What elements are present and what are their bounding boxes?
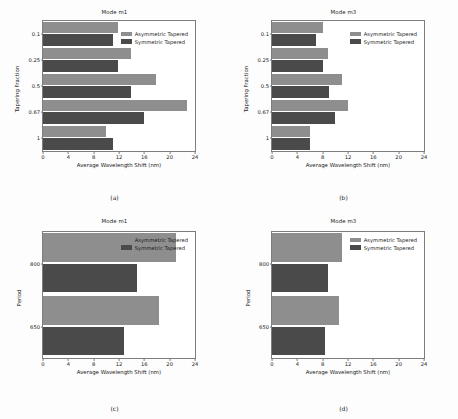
x-tick-mark (348, 358, 349, 361)
figure-four-panel-bar-charts: Mode m1 Asymmetric Tapered Symmetric Tap… (0, 0, 458, 419)
y-tick-mark (270, 34, 273, 35)
panel-c-legend: Asymmetric Tapered Symmetric Tapered (118, 235, 191, 254)
x-tick-mark (119, 358, 120, 361)
x-tick-label: 24 (421, 361, 428, 367)
panel-b-title: Mode m3 (229, 9, 458, 15)
panel-d-xlabel: Average Wavelength Shift (nm) (272, 369, 424, 375)
y-tick-mark (270, 86, 273, 87)
x-tick-label: 24 (421, 154, 428, 160)
panel-b: Mode m3 Asymmetric Tapered Symmetric Tap… (229, 0, 458, 209)
y-tick-mark (41, 112, 44, 113)
bar-group (272, 125, 424, 151)
x-tick-label: 20 (166, 361, 173, 367)
x-tick-label: 4 (67, 361, 70, 367)
panel-a-xlabel: Average Wavelength Shift (nm) (43, 162, 195, 168)
x-tick-label: 16 (370, 361, 377, 367)
x-tick-label: 4 (67, 154, 70, 160)
y-tick-label: 800 (30, 261, 40, 267)
bar-asymmetric (272, 233, 342, 262)
x-tick-mark (93, 151, 94, 154)
panel-a-caption: (a) (0, 194, 229, 201)
legend-label-symmetric: Symmetric Tapered (364, 39, 414, 45)
y-tick-label: 0.67 (28, 109, 40, 115)
bar-group (43, 99, 195, 125)
y-tick-label: 0.25 (28, 57, 40, 63)
x-tick-label: 20 (395, 154, 402, 160)
x-tick-label: 8 (321, 154, 324, 160)
legend-label-asymmetric: Asymmetric Tapered (135, 237, 188, 243)
bar-group (272, 73, 424, 99)
y-tick-mark (41, 138, 44, 139)
y-tick-mark (270, 112, 273, 113)
y-tick-label: 0.5 (32, 83, 40, 89)
bar-asymmetric (272, 74, 342, 86)
bar-asymmetric (272, 100, 348, 112)
x-tick-mark (144, 151, 145, 154)
x-tick-mark (169, 358, 170, 361)
y-tick-mark (41, 86, 44, 87)
y-tick-mark (41, 34, 44, 35)
panel-d-caption: (d) (229, 405, 458, 412)
x-tick-mark (272, 358, 273, 361)
bar-asymmetric (43, 74, 156, 86)
x-tick-mark (424, 151, 425, 154)
x-tick-mark (373, 151, 374, 154)
panel-d: Mode m3 Asymmetric Tapered Symmetric Tap… (229, 209, 458, 418)
x-tick-mark (297, 151, 298, 154)
y-tick-label: 1 (266, 135, 269, 141)
bar-group (272, 47, 424, 73)
x-tick-label: 16 (141, 361, 148, 367)
y-tick-label: 0.67 (257, 109, 269, 115)
y-tick-label: 0.1 (261, 31, 269, 37)
x-tick-label: 24 (192, 361, 199, 367)
legend-item-asymmetric: Asymmetric Tapered (350, 237, 417, 243)
x-tick-label: 4 (296, 361, 299, 367)
bar-asymmetric (43, 22, 118, 34)
bar-group (43, 73, 195, 99)
x-tick-label: 12 (345, 154, 352, 160)
x-tick-mark (93, 358, 94, 361)
x-tick-mark (169, 151, 170, 154)
legend-label-asymmetric: Asymmetric Tapered (364, 31, 417, 37)
bar-symmetric (272, 60, 323, 72)
x-tick-label: 8 (92, 361, 95, 367)
panel-a-ylabel: Tapering Fraction (14, 59, 20, 119)
y-tick-label: 0.1 (32, 31, 40, 37)
x-tick-mark (43, 151, 44, 154)
panel-c-ylabel: Period (16, 268, 22, 328)
y-tick-label: 650 (30, 324, 40, 330)
panel-b-xlabel: Average Wavelength Shift (nm) (272, 162, 424, 168)
bar-asymmetric (43, 100, 187, 112)
panel-b-legend: Asymmetric Tapered Symmetric Tapered (347, 29, 420, 48)
legend-label-asymmetric: Asymmetric Tapered (364, 237, 417, 243)
legend-swatch-symmetric-icon (350, 245, 361, 250)
panel-a-title: Mode m1 (0, 9, 229, 15)
x-tick-label: 12 (116, 154, 123, 160)
x-tick-mark (322, 151, 323, 154)
y-tick-label: 0.5 (261, 83, 269, 89)
x-tick-label: 24 (192, 154, 199, 160)
x-tick-label: 0 (270, 154, 273, 160)
y-tick-mark (270, 326, 273, 327)
bar-asymmetric (272, 126, 310, 138)
x-tick-mark (144, 358, 145, 361)
bar-group (43, 295, 195, 358)
y-tick-mark (41, 60, 44, 61)
bar-group (272, 295, 424, 358)
bar-symmetric (272, 34, 316, 46)
bar-symmetric (43, 86, 131, 98)
bar-asymmetric (43, 126, 106, 138)
y-tick-mark (270, 60, 273, 61)
panel-d-plot-area: Asymmetric Tapered Symmetric Tapered 048… (271, 231, 425, 359)
x-tick-mark (68, 358, 69, 361)
legend-label-symmetric: Symmetric Tapered (364, 245, 414, 251)
x-tick-mark (119, 151, 120, 154)
bar-symmetric (43, 34, 113, 46)
x-tick-label: 0 (270, 361, 273, 367)
x-tick-mark (297, 358, 298, 361)
panel-a-legend: Asymmetric Tapered Symmetric Tapered (118, 29, 191, 48)
bar-symmetric (272, 86, 329, 98)
legend-item-symmetric: Symmetric Tapered (350, 39, 417, 45)
y-tick-mark (270, 138, 273, 139)
legend-swatch-symmetric-icon (121, 245, 132, 250)
